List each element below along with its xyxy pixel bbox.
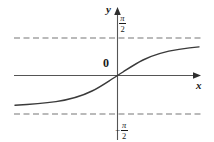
minus-sign: − — [115, 126, 120, 135]
fraction-denominator: 2 — [119, 25, 125, 34]
upper-asymptote-label: π 2 — [119, 14, 126, 33]
origin-label: 0 — [103, 57, 109, 69]
arctangent-graph-figure: y x 0 π 2 − π 2 — [0, 0, 214, 142]
y-axis-label: y — [106, 4, 111, 15]
plot-canvas — [0, 0, 214, 142]
x-axis-label: x — [196, 80, 202, 91]
fraction-numerator: π — [119, 14, 125, 23]
negative-pi-over-two-expression: − π 2 — [115, 121, 128, 140]
lower-asymptote-label: − π 2 — [115, 120, 128, 140]
pi-over-two-fraction: π 2 — [121, 121, 128, 140]
x-axis-arrowhead-icon — [193, 72, 201, 79]
fraction-numerator: π — [121, 121, 127, 130]
fraction-denominator: 2 — [121, 132, 127, 141]
pi-over-two-fraction: π 2 — [119, 14, 126, 33]
